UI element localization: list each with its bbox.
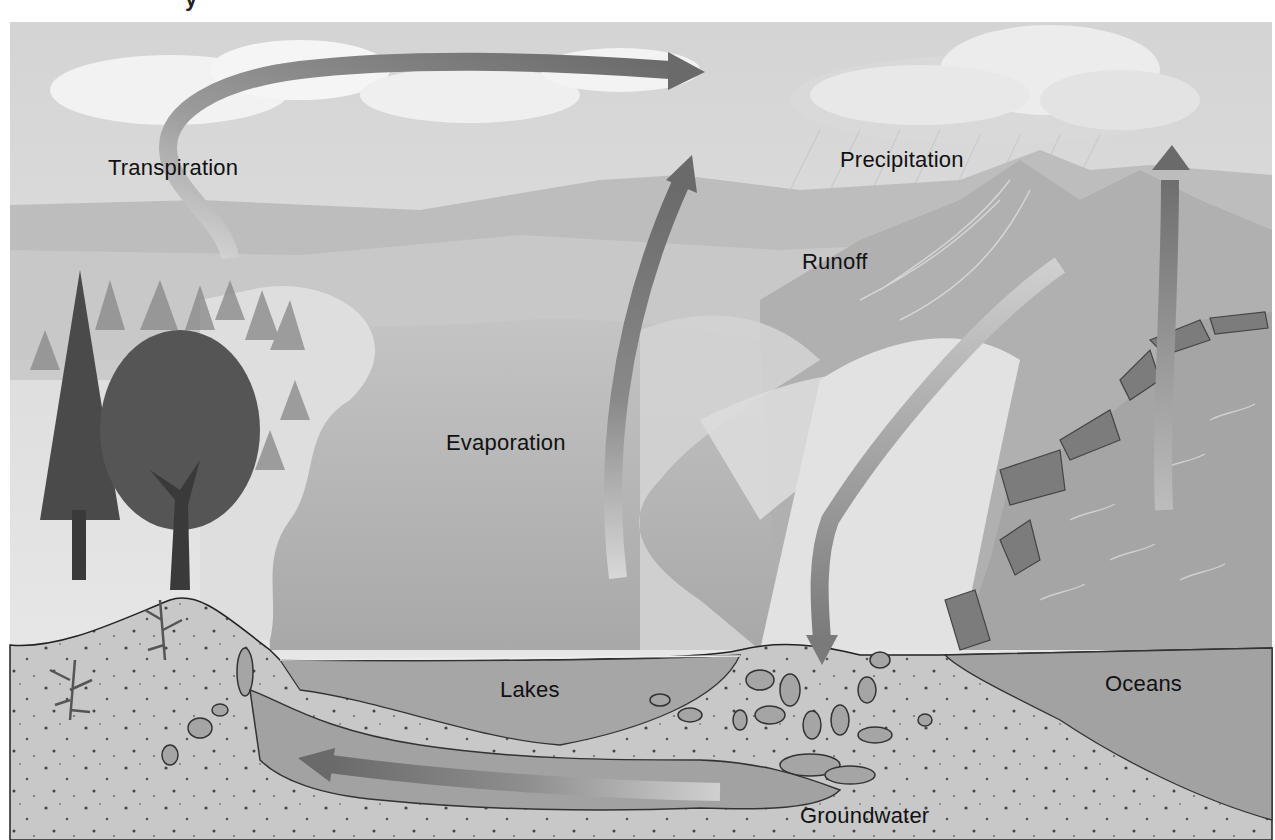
label-lakes: Lakes (500, 677, 560, 703)
label-oceans: Oceans (1105, 671, 1182, 697)
label-runoff: Runoff (802, 249, 868, 275)
water-cycle-illustration (0, 0, 1275, 840)
label-precipitation: Precipitation (840, 147, 964, 173)
label-evaporation: Evaporation (446, 430, 566, 456)
label-transpiration: Transpiration (108, 155, 238, 181)
label-groundwater: Groundwater (800, 803, 929, 829)
